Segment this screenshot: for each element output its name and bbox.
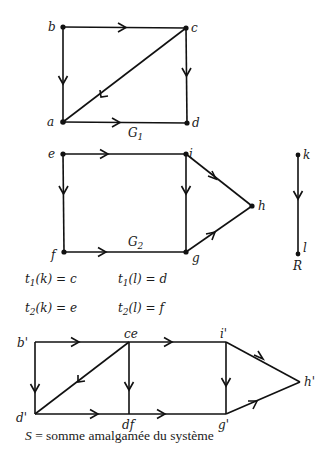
label-b: b <box>48 20 56 34</box>
label-ce: ce <box>124 327 138 341</box>
graph-label-r: R <box>292 259 302 273</box>
label-h': h' <box>304 375 315 389</box>
label-i: i <box>189 147 193 161</box>
edge-c-a <box>63 28 186 122</box>
caption: S = somme amalgamée du système <box>25 428 214 443</box>
node-h <box>249 203 254 208</box>
node-a <box>60 119 66 125</box>
label-d': d' <box>16 411 27 425</box>
equation-t1-l: t1(l) = d <box>118 272 167 288</box>
label-a: a <box>47 115 54 129</box>
edge-i'-h' <box>226 342 300 382</box>
graph-r: k l R <box>292 148 310 273</box>
equation-t1-k: t1(k) = c <box>25 272 77 288</box>
graph-s: b' ce i' h' d' df g' <box>16 327 315 432</box>
graph-g2: e i h f g G2 <box>48 147 266 265</box>
label-g: g <box>192 251 200 265</box>
edge-i-h <box>186 154 252 206</box>
label-l: l <box>303 241 307 255</box>
equation-t2-l: t2(l) = f <box>118 301 166 317</box>
label-h: h <box>258 199 266 213</box>
label-k: k <box>303 148 310 162</box>
node-d <box>184 120 189 125</box>
graph-label-g1: G1 <box>128 126 143 142</box>
label-g': g' <box>218 418 229 432</box>
label-c: c <box>191 21 198 35</box>
node-i <box>183 151 188 156</box>
edge-g-h <box>186 206 252 252</box>
edge-a-d <box>63 122 187 123</box>
edge-g'-h' <box>226 382 300 414</box>
node-f <box>61 249 66 254</box>
equation-t2-k: t2(k) = e <box>25 301 77 317</box>
edge-e-f <box>63 154 64 252</box>
node-l <box>296 252 301 257</box>
graph-label-g2: G2 <box>128 235 144 251</box>
label-f: f <box>50 248 58 262</box>
node-g <box>183 249 188 254</box>
node-k <box>296 153 301 158</box>
graph-g1: b c a d G1 <box>47 20 200 142</box>
node-b <box>60 24 65 29</box>
label-d: d <box>192 116 200 130</box>
diagram-canvas: b c a d G1 e i h f g G2 k l <box>0 0 328 466</box>
equations: t1(k) = c t1(l) = d t2(k) = e t2(l) = f <box>25 272 167 317</box>
node-e <box>60 151 65 156</box>
edge-ce-d' <box>35 342 129 414</box>
node-c <box>183 25 188 30</box>
label-b': b' <box>17 336 28 350</box>
label-e: e <box>48 147 55 161</box>
label-i': i' <box>220 327 227 341</box>
